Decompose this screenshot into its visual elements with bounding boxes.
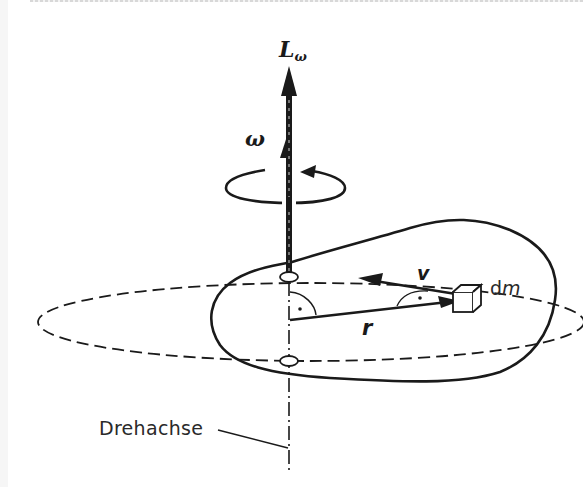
diagram-canvas: Lω ω v r dm Drehachse xyxy=(0,0,583,487)
axis-ring-top xyxy=(280,272,298,282)
mass-element-cube xyxy=(453,285,481,312)
axis-ring-bottom xyxy=(280,356,298,366)
rigid-body-outline xyxy=(211,220,556,381)
right-angle-mark-axis xyxy=(290,292,316,315)
radius-vector xyxy=(290,296,460,320)
axis-rod xyxy=(286,95,292,275)
label-angular-velocity: ω xyxy=(245,128,265,149)
label-mass-element: dm xyxy=(490,279,521,298)
label-angular-momentum: Lω xyxy=(279,38,307,63)
angular-momentum-arrow xyxy=(281,66,297,96)
label-velocity: v xyxy=(417,264,429,283)
rotation-sense-arrow xyxy=(226,165,345,211)
axis-label-leader xyxy=(218,430,288,448)
label-radius: r xyxy=(362,318,372,339)
diagram-svg xyxy=(0,0,583,487)
label-rotation-axis: Drehachse xyxy=(99,419,203,438)
